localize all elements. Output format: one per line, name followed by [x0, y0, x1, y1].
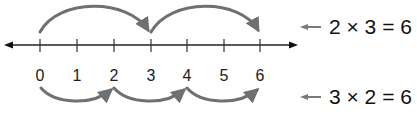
tick-label-0: 0: [36, 67, 45, 84]
pointer-arrow-icon: [300, 94, 321, 100]
equation-3x2: 3 × 2 = 6: [329, 85, 412, 108]
jump-arc-2-to-4: [114, 88, 184, 101]
tick-labels: 0 1 2 3 4 5 6: [36, 67, 265, 84]
tick-label-4: 4: [183, 67, 192, 84]
tick-label-3: 3: [147, 67, 156, 84]
right-arrowhead-icon: [289, 42, 298, 49]
bottom-jump-arcs: [41, 88, 257, 101]
jump-arc-3-to-6: [151, 6, 258, 32]
left-arrowhead-icon: [4, 42, 13, 49]
jump-arc-0-to-3: [40, 6, 148, 32]
tick-label-5: 5: [220, 67, 229, 84]
bottom-equation: 3 × 2 = 6: [300, 85, 412, 108]
number-line-diagram: 0 1 2 3 4 5 6 2 × 3 = 6 3 × 2 = 6: [0, 0, 417, 115]
tick-label-6: 6: [256, 67, 265, 84]
pointer-arrow-icon: [300, 24, 321, 30]
equation-2x3: 2 × 3 = 6: [329, 15, 412, 38]
jump-arc-0-to-2: [41, 88, 111, 101]
top-equation: 2 × 3 = 6: [300, 15, 412, 38]
tick-label-1: 1: [73, 67, 82, 84]
tick-label-2: 2: [110, 67, 119, 84]
jump-arc-4-to-6: [187, 88, 257, 101]
top-jump-arcs: [40, 6, 258, 32]
